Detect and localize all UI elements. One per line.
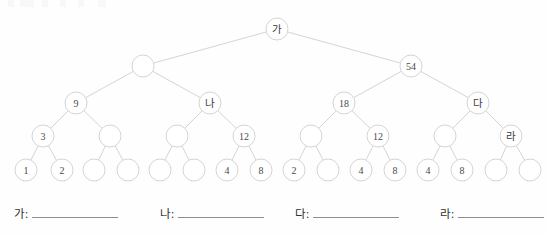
answer-da[interactable]: 다: — [295, 204, 399, 221]
node-label: 1 — [24, 165, 29, 176]
tree-edge — [185, 111, 202, 128]
node-label: 가 — [272, 24, 282, 35]
answer-ga-label: 가: — [14, 205, 28, 221]
node-circle — [132, 55, 154, 77]
tree-edge — [31, 146, 38, 160]
tree-edge — [354, 71, 402, 97]
answer-na[interactable]: 나: — [160, 204, 264, 221]
tree-edge — [165, 146, 172, 160]
node-label: 12 — [239, 131, 249, 142]
tree-node-empty[interactable] — [485, 159, 507, 181]
tree-edge — [115, 146, 123, 161]
tree-edge — [84, 111, 102, 129]
tree-edge — [86, 71, 134, 97]
node-circle — [117, 159, 139, 181]
tree-node-filled[interactable]: 4 — [216, 159, 238, 181]
node-label: 다 — [473, 98, 483, 109]
node-label: 4 — [359, 165, 364, 176]
tree-node-filled[interactable]: 2 — [51, 159, 73, 181]
tree-edge — [316, 146, 323, 160]
worksheet-canvas: 가549나18다31212라124824848 가:나:다:라: — [0, 0, 546, 235]
tree-node-filled[interactable]: 3 — [32, 125, 54, 147]
tree-edge — [516, 146, 524, 161]
node-label: 3 — [41, 131, 46, 142]
node-label: 18 — [339, 98, 349, 109]
tree-node-empty[interactable] — [183, 159, 205, 181]
node-circle — [166, 125, 188, 147]
tree-node-empty[interactable] — [99, 125, 121, 147]
node-circle — [434, 125, 456, 147]
tree-edge — [299, 146, 306, 160]
tree-nodes-group: 가549나18다31212라124824848 — [15, 18, 541, 181]
tree-node-filled[interactable]: 4 — [417, 159, 439, 181]
tree-node-filled[interactable]: 8 — [451, 159, 473, 181]
tree-node-filled[interactable]: 라 — [500, 125, 522, 147]
tree-node-filled[interactable]: 다 — [467, 92, 489, 114]
answer-ga[interactable]: 가: — [14, 204, 118, 221]
tree-edge — [249, 146, 256, 160]
tree-edge — [48, 146, 56, 161]
node-label: 9 — [74, 98, 79, 109]
tree-edge — [288, 32, 401, 63]
node-circle — [317, 159, 339, 181]
tree-node-empty[interactable] — [166, 125, 188, 147]
tree-edge — [383, 146, 390, 160]
node-circle — [519, 159, 541, 181]
answer-na-label: 나: — [160, 205, 174, 221]
tree-edge — [421, 71, 469, 97]
tree-edge — [486, 111, 503, 128]
node-label: 54 — [406, 61, 416, 72]
node-label: 2 — [60, 165, 65, 176]
tree-edge — [453, 111, 470, 128]
tree-node-empty[interactable] — [149, 159, 171, 181]
answer-ra[interactable]: 라: — [440, 204, 544, 221]
tree-node-empty[interactable] — [300, 125, 322, 147]
tree-node-filled[interactable]: 나 — [199, 92, 221, 114]
tree-edge — [366, 146, 373, 160]
tree-node-empty[interactable] — [83, 159, 105, 181]
tree-node-filled[interactable]: 1 — [15, 159, 37, 181]
tree-node-filled[interactable]: 18 — [333, 92, 355, 114]
tree-node-filled[interactable]: 8 — [250, 159, 272, 181]
node-label: 나 — [205, 98, 215, 109]
answer-ra-label: 라: — [440, 205, 454, 221]
tree-edge — [319, 111, 336, 128]
node-circle — [99, 125, 121, 147]
tree-edge — [99, 146, 106, 160]
tree-edge — [218, 111, 236, 129]
tree-node-filled[interactable]: 가 — [266, 18, 288, 40]
node-label: 2 — [292, 165, 297, 176]
tree-edge — [51, 111, 68, 128]
tree-edge — [153, 71, 201, 97]
node-label: 8 — [259, 165, 264, 176]
tree-edge — [182, 146, 189, 160]
answer-da-label: 다: — [295, 205, 309, 221]
tree-node-empty[interactable] — [117, 159, 139, 181]
tree-node-empty[interactable] — [434, 125, 456, 147]
tree-node-filled[interactable]: 4 — [350, 159, 372, 181]
node-label: 4 — [426, 165, 431, 176]
tree-node-filled[interactable]: 12 — [367, 125, 389, 147]
node-label: 4 — [225, 165, 230, 176]
answer-ra-input[interactable] — [458, 204, 544, 218]
answer-ga-input[interactable] — [32, 204, 118, 218]
tree-node-filled[interactable]: 9 — [65, 92, 87, 114]
answer-na-input[interactable] — [178, 204, 264, 218]
tree-node-empty[interactable] — [519, 159, 541, 181]
tree-node-filled[interactable]: 8 — [384, 159, 406, 181]
binary-tree-diagram: 가549나18다31212라124824848 — [0, 0, 546, 196]
answer-da-input[interactable] — [313, 204, 399, 218]
tree-node-filled[interactable]: 12 — [233, 125, 255, 147]
tree-edge — [450, 146, 457, 160]
node-circle — [83, 159, 105, 181]
tree-node-empty[interactable] — [317, 159, 339, 181]
node-circle — [183, 159, 205, 181]
tree-node-filled[interactable]: 2 — [283, 159, 305, 181]
node-label: 라 — [506, 131, 516, 142]
tree-edge — [500, 146, 506, 160]
node-circle — [149, 159, 171, 181]
tree-node-empty[interactable] — [132, 55, 154, 77]
node-circle — [485, 159, 507, 181]
answer-blanks-row: 가:나:다:라: — [0, 196, 546, 235]
tree-node-filled[interactable]: 54 — [400, 55, 422, 77]
